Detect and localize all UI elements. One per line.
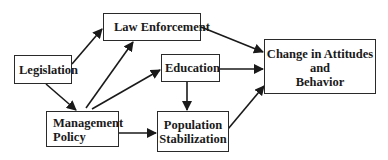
node-label: Law Enforcement bbox=[114, 20, 200, 34]
node-label-line3: Behavior bbox=[265, 75, 375, 89]
node-law-enforcement: Law Enforcement bbox=[103, 13, 201, 41]
arrow-management-to-education bbox=[92, 70, 160, 109]
node-label-line2: Stabilization bbox=[158, 132, 228, 146]
node-label-line2: and bbox=[265, 61, 375, 75]
node-management-policy: Management Policy bbox=[46, 111, 119, 147]
node-label-line2: Policy bbox=[53, 130, 118, 144]
node-label: Legislation bbox=[19, 63, 71, 77]
node-change-in-attitudes-and-behavior: Change in Attitudes and Behavior bbox=[264, 39, 376, 94]
node-label: Education bbox=[165, 61, 219, 75]
node-population-stabilization: Population Stabilization bbox=[157, 111, 229, 152]
node-label-line1: Change in Attitudes bbox=[265, 47, 375, 61]
arrow-law-enforcement-to-change bbox=[201, 27, 263, 52]
node-label-line1: Population bbox=[158, 118, 228, 132]
arrow-legislation-to-law-enforcement bbox=[72, 29, 102, 64]
arrow-legislation-to-management-policy bbox=[46, 84, 76, 110]
arrow-population-to-change bbox=[228, 86, 264, 129]
node-legislation: Legislation bbox=[14, 55, 72, 84]
node-label-line1: Management bbox=[53, 116, 118, 130]
node-education: Education bbox=[161, 54, 220, 82]
